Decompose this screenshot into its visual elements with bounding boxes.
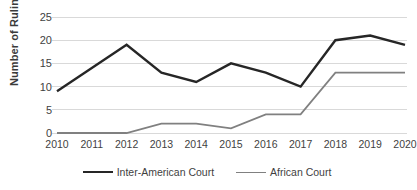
x-axis-tick-label: 2015	[219, 138, 242, 150]
x-axis-tick-label: 2012	[115, 138, 138, 150]
y-axis-tick-label: 15	[30, 58, 52, 69]
x-axis-tick-label: 2020	[393, 138, 416, 150]
legend-item[interactable]: African Court	[236, 166, 331, 178]
legend-line-swatch-icon	[83, 171, 113, 173]
y-axis-tick-label: 10	[30, 81, 52, 92]
x-axis-tick-label: 2016	[254, 138, 277, 150]
x-axis-tick-label: 2010	[45, 138, 68, 150]
y-axis-tick-label: 0	[30, 128, 52, 139]
chart-legend: Inter-American CourtAfrican Court	[0, 166, 414, 178]
x-axis-tick-labels: 2010201120122013201420152016201720182019…	[57, 138, 405, 154]
x-axis-tick-label: 2018	[324, 138, 347, 150]
legend-line-swatch-icon	[236, 172, 266, 173]
series-line-african-court	[57, 73, 405, 133]
x-axis-tick-label: 2013	[150, 138, 173, 150]
y-axis-tick-label: 5	[30, 104, 52, 115]
y-axis-tick-labels: 2520151050	[30, 0, 52, 190]
legend-label: African Court	[270, 166, 331, 178]
x-axis-tick-label: 2019	[359, 138, 382, 150]
y-axis-tick-label: 25	[30, 12, 52, 23]
x-axis-tick-label: 2017	[289, 138, 312, 150]
legend-label: Inter-American Court	[117, 166, 214, 178]
y-axis-tick-label: 20	[30, 35, 52, 46]
x-axis-tick-label: 2011	[81, 138, 104, 150]
x-axis-tick-label: 2014	[185, 138, 208, 150]
legend-item[interactable]: Inter-American Court	[83, 166, 214, 178]
